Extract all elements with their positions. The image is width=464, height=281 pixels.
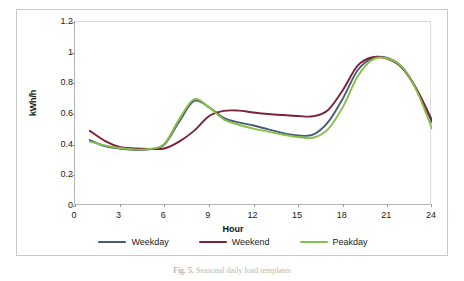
series-line-weekday [90,57,432,150]
legend-item-peakday[interactable]: Peakday [300,237,368,247]
legend-item-weekday[interactable]: Weekday [98,237,168,247]
y-axis-title: kWh/h [28,63,38,143]
x-tick-label: 18 [327,210,357,220]
y-tick-mark [72,114,75,115]
legend-label: Weekend [232,237,270,247]
chart-plot-area: kWh/h 00.20.40.60.811.2 03691215182124 H… [17,10,449,257]
legend-item-weekend[interactable]: Weekend [199,237,270,247]
figure-frame: kWh/h 00.20.40.60.811.2 03691215182124 H… [16,9,448,256]
y-tick-label: 0.2 [47,169,73,179]
x-tick-mark [120,204,121,207]
y-tick-label: 0.8 [47,77,73,87]
x-tick-label: 9 [193,210,223,220]
x-tick-label: 0 [59,210,89,220]
x-tick-label: 12 [238,210,268,220]
y-tick-label: 1.2 [47,16,73,26]
x-tick-label: 21 [371,210,401,220]
x-tick-mark [387,204,388,207]
y-tick-mark [72,145,75,146]
y-tick-label: 0.4 [47,139,73,149]
series-line-peakday [90,57,432,149]
legend-swatch-weekend [199,241,227,243]
legend-label: Weekday [131,237,168,247]
series-line-weekend [90,57,432,149]
x-tick-mark [343,204,344,207]
x-tick-mark [209,204,210,207]
legend-swatch-weekday [98,241,126,243]
x-tick-mark [254,204,255,207]
legend-swatch-peakday [300,241,328,243]
y-tick-mark [72,175,75,176]
x-tick-label: 6 [148,210,178,220]
y-tick-label: 0.6 [47,108,73,118]
legend-label: Peakday [333,237,368,247]
x-tick-label: 15 [282,210,312,220]
figure-caption-prefix: Fig. 5. [173,266,194,275]
x-tick-mark [75,204,76,207]
x-tick-mark [431,204,432,207]
x-tick-mark [298,204,299,207]
x-tick-mark [164,204,165,207]
series-lines [75,22,432,206]
x-tick-label: 3 [104,210,134,220]
y-tick-label: 1 [47,47,73,57]
x-tick-label: 24 [416,210,446,220]
y-tick-mark [72,83,75,84]
figure-caption: Fig. 5. Seasonal daily load templates [0,266,464,281]
y-tick-mark [72,22,75,23]
figure-caption-text: Seasonal daily load templates [194,266,291,275]
y-tick-label: 0 [47,200,73,210]
x-axis-title: Hour [17,224,449,234]
y-tick-mark [72,53,75,54]
plot-box [74,21,431,205]
chart-legend: WeekdayWeekendPeakday [17,237,449,247]
